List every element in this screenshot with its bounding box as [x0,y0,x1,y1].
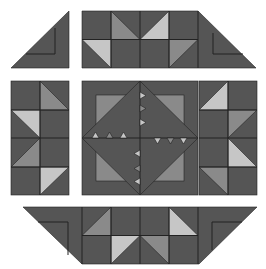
top-left-corner-piece [11,11,69,68]
quilt-diagram [0,0,266,269]
